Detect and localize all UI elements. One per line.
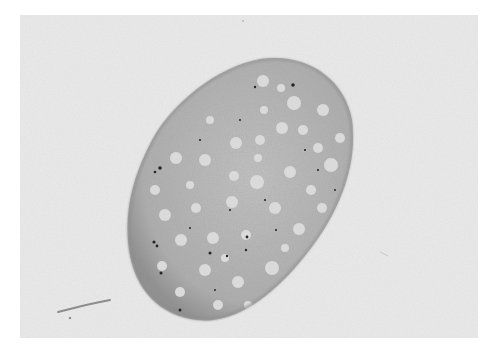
micrograph-figure [0,0,491,356]
micrograph-image [0,0,491,356]
speck [242,20,244,22]
